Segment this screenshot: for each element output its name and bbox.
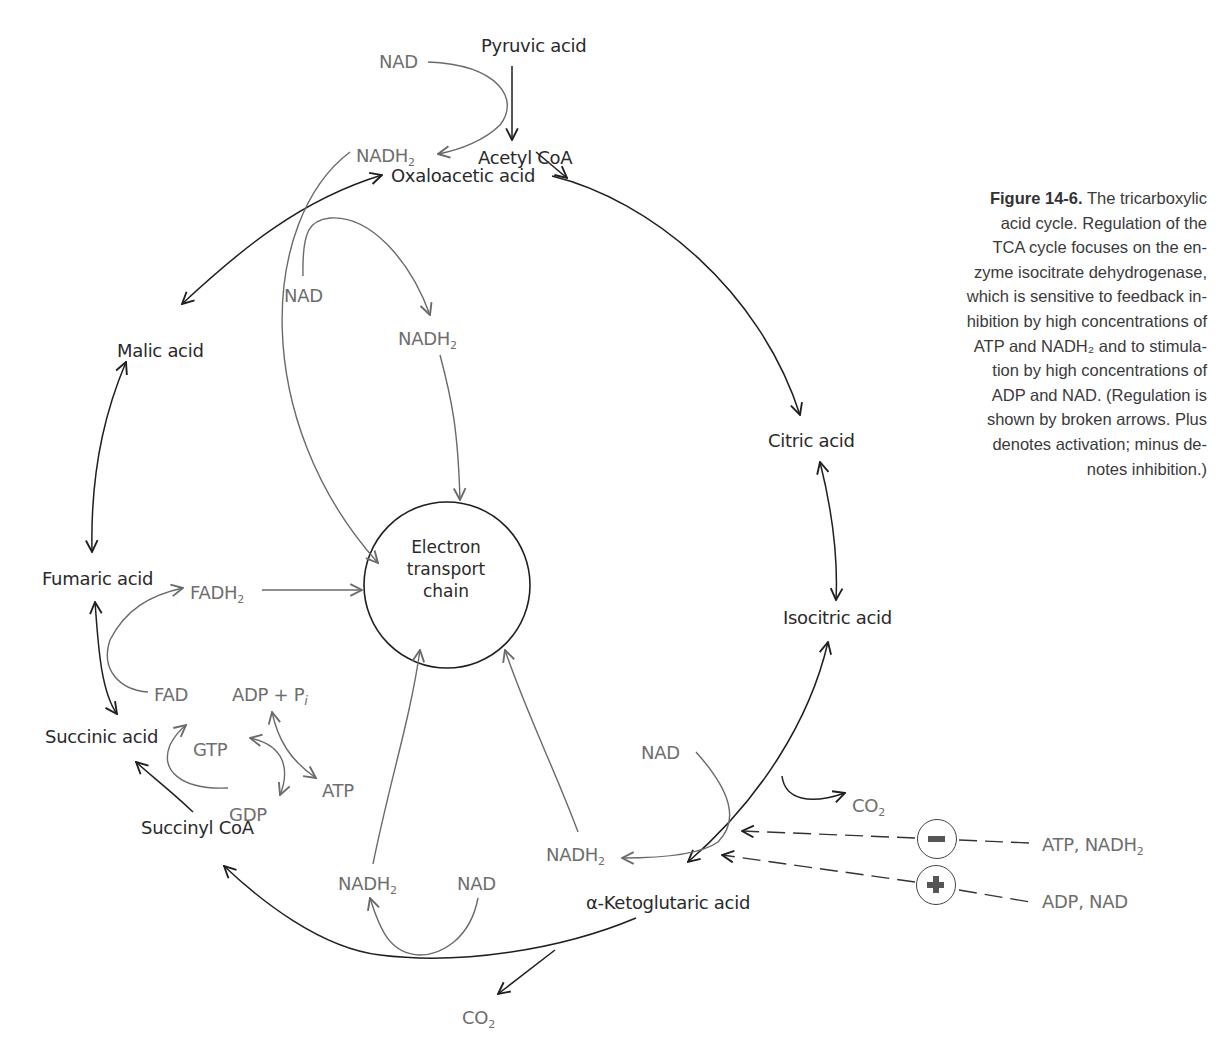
nadh2-isocitrate-to-etc-arrow [505,650,578,832]
label-inhibitors: ATP, NADH2 [1042,835,1143,855]
label-citric-acid: Citric acid [768,431,855,451]
label-adp-pi: ADP + Pi [232,685,308,711]
label-pyruvic-acid: Pyruvic acid [481,36,586,56]
malate-oaa-arrow [182,175,382,304]
pyruvate-nad-arrow [428,62,507,154]
label-gtp: GTP [193,740,227,760]
succinylcoa-to-succinate-arrow [136,762,193,812]
label-co2-ketoglutarate: CO2 [462,1008,495,1028]
label-oxaloacetic-acid: Oxaloacetic acid [391,166,535,186]
label-malic-acid: Malic acid [117,341,204,361]
figure-label: Figure 14-6. [990,189,1083,207]
electron-transport-chain-label: Electron transport chain [378,536,514,602]
activation-dashed-arrow [722,855,915,882]
label-fadh2: FADH2 [190,583,244,603]
fad-to-fadh2-arrow [107,588,183,692]
citrate-isocitrate-arrow [820,462,836,600]
isocitrate-to-akg-arrow [688,642,828,862]
label-fad: FAD [154,685,188,705]
label-nadh2-pyruvate: NADH2 [356,146,415,166]
label-succinic-acid: Succinic acid [45,727,158,747]
inhibition-dashed-tail [959,840,1030,843]
isocitrate-co2-arrow [782,776,845,799]
label-co2-isocitrate: CO2 [852,796,885,816]
nadh2-malate-to-etc-arrow [440,355,460,500]
inhibition-minus-icon [917,819,957,859]
label-nadh2-ketoglutarate: NADH2 [338,874,397,894]
label-gdp: GDP [229,805,267,825]
label-alpha-ketoglutaric-acid: α-Ketoglutaric acid [586,893,750,913]
succinate-fumarate-arrow [95,602,117,714]
figure-caption: Figure 14-6. The tricarboxylic acid cycl… [907,186,1207,481]
gtp-to-gdp-arrow [250,738,285,795]
isocitrate-nad-arrow [622,752,730,858]
label-nadh2-malate: NADH2 [398,329,457,349]
akg-nad-arrow [370,898,478,955]
oaa-to-citrate-arrow [552,176,800,415]
fumarate-malate-arrow [92,362,126,552]
activation-plus-icon [916,865,956,905]
label-nad-pyruvate: NAD [379,52,418,72]
akg-co2-arrow [498,950,555,994]
adp-to-atp-arrow [272,712,316,778]
akg-to-succinylcoa-arrow [224,866,636,958]
label-nad-isocitrate: NAD [641,743,680,763]
label-fumaric-acid: Fumaric acid [42,569,153,589]
label-isocitric-acid: Isocitric acid [783,608,892,628]
label-nadh2-isocitrate: NADH2 [546,845,605,865]
label-nad-ketoglutarate: NAD [457,874,496,894]
label-atp: ATP [322,781,354,801]
activation-dashed-tail [959,890,1030,902]
label-activators: ADP, NAD [1042,892,1128,912]
inhibition-dashed-arrow [742,831,915,838]
label-nad-malate: NAD [284,286,323,306]
nadh2-akg-to-etc-arrow [373,650,420,864]
